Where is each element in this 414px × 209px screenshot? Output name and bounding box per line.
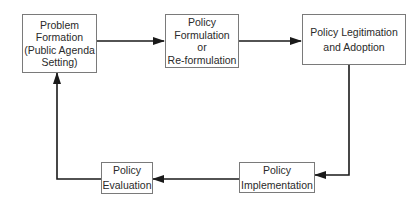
node-label-line: Setting) [41,56,77,69]
node-label-line: Re-formulation [168,54,237,67]
node-label-line: and Adoption [323,40,384,55]
arrow-legitimation-to-implementation [315,65,349,175]
node-policy-evaluation: Policy Evaluation [101,162,153,194]
arrow-evaluation-to-problem [57,73,101,179]
node-label-line: Policy [113,163,141,178]
node-policy-implementation: Policy Implementation [239,162,315,193]
node-label-line: Evaluation [102,178,151,193]
node-policy-legitimation: Policy Legitimation and Adoption [302,14,406,65]
node-label-line: Implementation [241,178,313,193]
node-policy-formulation: Policy Formulation or Re-formulation [165,14,239,68]
node-label-line: Policy [188,16,216,29]
node-label-line: Policy Legitimation [310,25,398,40]
node-label-line: (Public Agenda [24,44,95,57]
node-label-line: Policy [263,163,291,178]
node-label-line: Formulation [174,29,229,42]
node-label-line: Formation [36,31,83,44]
node-label-line: Problem [40,19,79,32]
node-label-line: or [197,41,206,54]
node-problem-formation: Problem Formation (Public Agenda Setting… [22,14,97,73]
